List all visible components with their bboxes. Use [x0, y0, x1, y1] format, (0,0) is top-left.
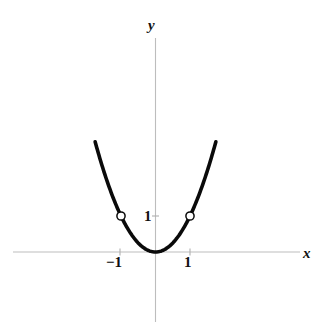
plot-background [0, 0, 324, 324]
open-point-positive-one [186, 212, 194, 220]
open-point-negative-one [117, 212, 125, 220]
x-tick-label-positive-one: 1 [184, 255, 192, 270]
y-tick-label-one: 1 [144, 209, 152, 224]
y-axis-label: y [148, 18, 155, 33]
x-tick-label-negative-one: −1 [106, 255, 122, 270]
graph-canvas [0, 0, 324, 324]
x-axis-label: x [303, 246, 311, 261]
